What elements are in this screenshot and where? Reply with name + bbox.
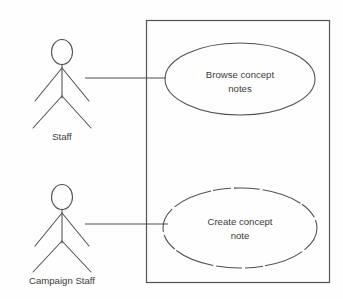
actor-campaign-staff[interactable]: Campaign Staff (29, 185, 95, 286)
use-case-label-line1: Create concept (207, 216, 272, 227)
use-case-label-line2: notes (228, 83, 252, 94)
actor-right-leg-icon (62, 96, 91, 128)
actor-right-leg-icon (62, 241, 91, 272)
actor-campaign-staff-label: Campaign Staff (29, 275, 95, 286)
actor-right-arm-icon (62, 68, 89, 101)
actor-staff[interactable]: Staff (33, 40, 91, 142)
actor-head-icon (52, 40, 73, 65)
actor-head-icon (52, 185, 73, 210)
actor-right-arm-icon (62, 213, 89, 246)
use-case-label-line1: Browse concept (206, 69, 275, 80)
use-case-create-concept-note[interactable]: Create concept note (163, 188, 317, 268)
use-case-browse-concept-notes[interactable]: Browse concept notes (165, 43, 315, 115)
system-boundary-rect (147, 21, 330, 283)
use-case-label-line2: note (231, 230, 250, 241)
actor-left-arm-icon (35, 213, 62, 246)
actor-left-arm-icon (35, 68, 62, 101)
actor-left-leg-icon (33, 96, 62, 128)
actor-left-leg-icon (33, 241, 62, 272)
actor-staff-label: Staff (52, 131, 72, 142)
use-case-diagram-canvas: Staff Campaign Staff Browse concept note… (0, 0, 343, 299)
use-case-ellipse (163, 188, 317, 268)
